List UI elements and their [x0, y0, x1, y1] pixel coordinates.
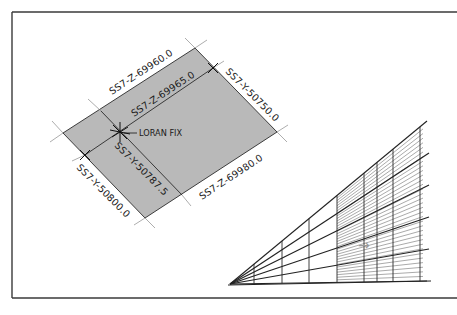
grid-fan-line [230, 217, 429, 284]
hatch-line [337, 134, 423, 201]
loran-fix-diagram: SS7-Z-69960.0 SS7-Z-69965.0 SS7-Z-69980.… [0, 0, 457, 315]
hatch-line [337, 129, 423, 198]
grid-fan-line [230, 249, 429, 284]
hatch-line [337, 253, 423, 267]
hatch-line [337, 226, 423, 252]
hatch-line [337, 244, 423, 262]
hatch-line [337, 184, 423, 228]
hatch-line [337, 143, 423, 206]
hatch-line [337, 235, 423, 257]
hatch-line [337, 221, 423, 249]
perspective-grid [228, 121, 431, 285]
hatch-line [337, 272, 423, 277]
hatch-line [337, 166, 423, 219]
hatch-line [337, 180, 423, 227]
hatch-line [337, 152, 423, 211]
label-loran-fix: LORAN FIX [139, 128, 183, 138]
arrow-icon: → [358, 237, 370, 253]
hatch-line [337, 198, 423, 236]
grid-fan-line [230, 153, 429, 284]
hatch-line [337, 161, 423, 216]
loran-lop-diagram: SS7-Z-69960.0 SS7-Z-69965.0 SS7-Z-69980.… [50, 38, 288, 228]
grid-fan-line [230, 121, 427, 284]
hatch-line [337, 276, 423, 279]
hatch-line [337, 138, 423, 203]
grid-baseline [228, 281, 431, 285]
